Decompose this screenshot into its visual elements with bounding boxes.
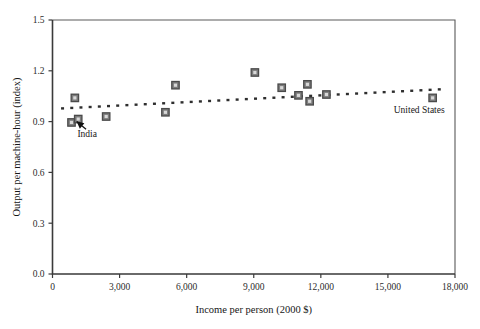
trend-line-dot <box>171 102 174 104</box>
trend-line-dot <box>116 104 119 106</box>
data-point <box>304 81 311 88</box>
trend-line-dot <box>373 91 376 93</box>
y-tick-label: 0.6 <box>33 168 45 178</box>
data-point <box>162 109 169 116</box>
trend-line-dot <box>438 88 441 90</box>
trend-line-dot <box>355 92 358 94</box>
trend-line-dot <box>98 105 101 107</box>
data-point <box>251 69 258 76</box>
trend-line-dot <box>263 97 266 99</box>
scatter-chart-figure: 03,0006,0009,00012,00015,00018,000 0.00.… <box>0 0 480 329</box>
trend-line-dot <box>181 101 184 103</box>
annotation-label: India <box>77 129 97 139</box>
trend-line-dot <box>410 90 413 92</box>
trend-line-dot <box>107 105 110 107</box>
data-point-core <box>77 117 80 120</box>
trend-line-dot <box>392 90 395 92</box>
data-point-core <box>431 96 434 99</box>
data-points <box>68 69 437 126</box>
x-tick-label: 3,000 <box>109 282 131 292</box>
data-point <box>71 94 78 101</box>
data-point <box>295 92 302 99</box>
trend-line-dot <box>144 103 147 105</box>
trend-line-dot <box>272 97 275 99</box>
trend-line-dot <box>135 103 138 105</box>
trend-line-dot <box>346 93 349 95</box>
data-point-core <box>164 111 167 114</box>
trend-line-dot <box>125 104 128 106</box>
data-point <box>102 113 109 120</box>
trend-line-dot <box>419 89 422 91</box>
chart-canvas: 03,0006,0009,00012,00015,00018,000 0.00.… <box>0 0 480 329</box>
plot-frame <box>53 20 456 274</box>
x-tick-label: 9,000 <box>243 282 265 292</box>
trend-line-dot <box>282 96 285 98</box>
trend-line <box>61 88 441 109</box>
y-tick-label: 1.2 <box>33 66 45 76</box>
trend-line-dot <box>429 89 432 91</box>
y-axis-ticks: 0.00.30.60.91.21.5 <box>33 15 53 279</box>
trend-line-dot <box>70 107 73 109</box>
data-point <box>429 94 436 101</box>
plot-frame-top-right <box>53 20 456 274</box>
trend-line-dot <box>291 96 294 98</box>
plot-axis-left-bottom <box>53 20 456 274</box>
trend-line-dot <box>217 99 220 101</box>
trend-line-dot <box>401 90 404 92</box>
x-tick-label: 18,000 <box>442 282 468 292</box>
x-axis-ticks: 03,0006,0009,00012,00015,00018,000 <box>50 274 468 292</box>
trend-line-dot <box>199 100 202 102</box>
x-tick-label: 15,000 <box>375 282 401 292</box>
trend-line-dot <box>153 103 156 105</box>
trend-line-dot <box>208 100 211 102</box>
y-tick-label: 0.0 <box>33 269 45 279</box>
data-point <box>306 98 313 105</box>
data-point-core <box>280 86 283 89</box>
trend-line-dot <box>254 97 257 99</box>
data-point-core <box>73 96 76 99</box>
trend-line-dot <box>337 93 340 95</box>
data-point-core <box>306 83 309 86</box>
data-point-core <box>253 71 256 74</box>
data-point <box>323 91 330 98</box>
y-tick-label: 0.3 <box>33 219 45 229</box>
trend-line-dot <box>89 106 92 108</box>
data-point-core <box>325 93 328 96</box>
annotation-label: United States <box>394 105 445 115</box>
trend-line-dot <box>226 99 229 101</box>
x-tick-label: 12,000 <box>308 282 334 292</box>
trend-line-dot <box>236 98 239 100</box>
x-tick-label: 0 <box>50 282 55 292</box>
x-tick-label: 6,000 <box>176 282 198 292</box>
data-point <box>75 115 82 122</box>
y-axis-title: Output per machine-hour (index) <box>11 77 23 217</box>
trend-line-dot <box>61 107 64 109</box>
data-point <box>278 84 285 91</box>
trend-line-dot <box>309 95 312 97</box>
trend-line-dot <box>79 106 82 108</box>
data-point-core <box>70 121 73 124</box>
data-point <box>172 81 179 88</box>
trend-line-dot <box>162 102 165 104</box>
trend-line-dot <box>318 94 321 96</box>
trend-line-dot <box>364 92 367 94</box>
chart-annotations: IndiaUnited States <box>77 105 445 139</box>
trend-line-dot <box>190 101 193 103</box>
x-axis-title: Income per person (2000 $) <box>195 304 312 316</box>
trend-line-dot <box>383 91 386 93</box>
data-point-core <box>308 100 311 103</box>
data-point-core <box>105 115 108 118</box>
trend-line-dot <box>245 98 248 100</box>
y-tick-label: 0.9 <box>33 117 45 127</box>
data-point-core <box>297 94 300 97</box>
data-point-core <box>174 84 177 87</box>
y-tick-label: 1.5 <box>33 15 45 25</box>
